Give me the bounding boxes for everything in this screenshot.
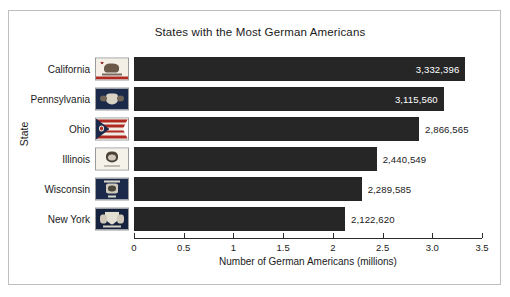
illinois-flag-icon — [95, 148, 129, 171]
category-label-california: California — [20, 64, 90, 75]
chart-title: States with the Most German Americans — [60, 26, 460, 38]
x-tick — [184, 233, 185, 238]
chart-figure: States with the Most German Americans St… — [0, 0, 510, 297]
bar[interactable] — [134, 147, 377, 171]
x-tick-label: 2.5 — [376, 242, 389, 253]
x-axis-title: Number of German Americans (millions) — [134, 256, 482, 267]
bar[interactable] — [134, 117, 419, 141]
x-tick-label: 0.5 — [177, 242, 190, 253]
x-tick — [482, 233, 483, 238]
category-label-ohio: Ohio — [20, 124, 90, 135]
bar-row: 2,440,549 — [134, 147, 482, 171]
ohio-flag-icon — [95, 118, 129, 141]
category-label-wisconsin: Wisconsin — [20, 184, 90, 195]
bar-value-label: 3,115,560 — [395, 94, 438, 105]
category-label-pennsylvania: Pennsylvania — [20, 94, 90, 105]
plot-area: 3,332,3963,115,5602,866,5652,440,5492,28… — [134, 54, 482, 235]
pennsylvania-flag-icon — [95, 88, 129, 111]
x-axis-line: 00.511.522.53.03.5 — [134, 238, 482, 239]
x-tick-label: 1.5 — [277, 242, 290, 253]
bar-value-label: 2,866,565 — [425, 124, 469, 135]
x-tick — [233, 233, 234, 238]
bar-value-label: 2,440,549 — [383, 154, 427, 165]
x-tick — [333, 233, 334, 238]
california-flag-icon — [95, 58, 129, 81]
x-tick — [134, 233, 135, 238]
bar-value-label: 2,289,585 — [368, 184, 412, 195]
bar[interactable] — [134, 177, 362, 201]
x-tick-label: 1 — [231, 242, 236, 253]
x-tick-label: 3.5 — [475, 242, 488, 253]
bar-row: 2,289,585 — [134, 177, 482, 201]
x-tick-label: 2 — [330, 242, 335, 253]
bar-row: 3,332,396 — [134, 57, 482, 81]
x-tick — [283, 233, 284, 238]
category-label-new-york: New York — [20, 214, 90, 225]
bar-row: 2,866,565 — [134, 117, 482, 141]
bar-value-label: 2,122,620 — [351, 214, 395, 225]
bar[interactable] — [134, 207, 345, 231]
newyork-flag-icon — [95, 208, 129, 231]
x-tick-label: 0 — [131, 242, 136, 253]
category-label-illinois: Illinois — [20, 154, 90, 165]
bar-row: 3,115,560 — [134, 87, 482, 111]
wisconsin-flag-icon — [95, 178, 129, 201]
bar-value-label: 3,332,396 — [416, 64, 460, 75]
x-tick-label: 3.0 — [426, 242, 439, 253]
x-tick — [383, 233, 384, 238]
bar-row: 2,122,620 — [134, 207, 482, 231]
x-tick — [432, 233, 433, 238]
